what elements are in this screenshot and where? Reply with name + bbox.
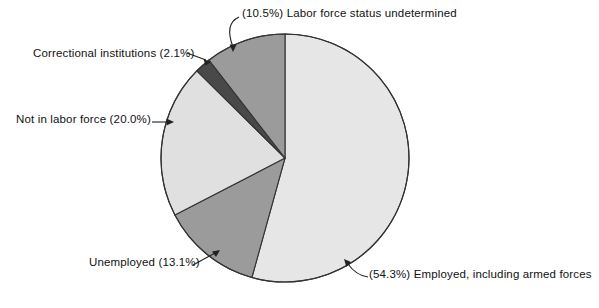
pie-label-unemployed: Unemployed (13.1%) bbox=[89, 256, 200, 269]
pie-label-labor-force-undetermined: (10.5%) Labor force status undetermined bbox=[242, 7, 457, 20]
pie-label-not-in-labor-force: Not in labor force (20.0%) bbox=[16, 113, 151, 126]
pie-label-employed: (54.3%) Employed, including armed forces bbox=[369, 268, 592, 281]
leader-line-employed bbox=[348, 264, 368, 277]
pie-chart-figure: (10.5%) Labor force status undetermined … bbox=[0, 0, 599, 308]
leader-line-undetermined bbox=[230, 17, 239, 47]
pie-label-correctional-institutions: Correctional institutions (2.1%) bbox=[33, 47, 194, 60]
